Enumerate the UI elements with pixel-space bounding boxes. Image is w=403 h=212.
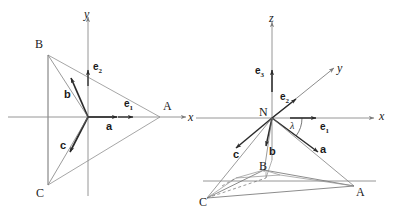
- right-axis-label-z: z: [269, 12, 274, 24]
- diagram-svg: [0, 0, 403, 212]
- right-label-b: b: [269, 146, 276, 157]
- left-label-e2-subscript: 2: [99, 67, 103, 75]
- left-ray-to-c: [48, 117, 88, 185]
- right-triangle-abc: [207, 170, 354, 198]
- right-label-e3: e3: [255, 66, 264, 79]
- right-label-e1-subscript: 1: [326, 127, 330, 135]
- right-label-e2-subscript: 2: [286, 97, 290, 105]
- left-point-label-b: B: [35, 38, 43, 50]
- left-point-label-a: A: [163, 100, 172, 112]
- left-label-e1: e1: [124, 99, 133, 112]
- left-label-c: c: [60, 140, 66, 151]
- right-axis-label-x: x: [379, 110, 384, 122]
- left-triangle-abc: [48, 55, 160, 185]
- right-axis-label-y: y: [337, 62, 342, 74]
- right-point-label-c: C: [199, 196, 207, 208]
- right-ray-nc: [207, 118, 272, 198]
- left-axis-label-y: y: [84, 8, 89, 20]
- left-point-label-c: C: [36, 187, 44, 199]
- left-vector-b: [71, 78, 88, 117]
- right-point-label-a: A: [356, 186, 365, 198]
- right-angle-label-lambda: λ: [290, 121, 294, 131]
- figure-canvas: x y A B C e1 e2 a b c x y z N λ e1 e2 e3…: [0, 0, 403, 212]
- left-axis-label-x: x: [188, 111, 193, 123]
- left-ray-to-b: [48, 55, 88, 117]
- right-projection-quad: [207, 175, 354, 198]
- right-panel-group: [196, 22, 376, 198]
- right-point-label-b: B: [259, 160, 267, 172]
- right-vector-a: [272, 118, 318, 152]
- left-label-a: a: [106, 121, 112, 132]
- right-label-c: c: [233, 149, 239, 160]
- right-label-a: a: [320, 144, 326, 155]
- right-label-e2: e2: [280, 92, 289, 105]
- left-label-b: b: [64, 89, 71, 100]
- left-label-e1-subscript: 1: [130, 104, 134, 112]
- right-label-e3-subscript: 3: [261, 71, 265, 79]
- right-label-e1: e1: [320, 122, 329, 135]
- right-angle-lambda-arc: [296, 118, 302, 136]
- right-origin-label-n: N: [259, 106, 268, 118]
- left-label-e2: e2: [93, 62, 102, 75]
